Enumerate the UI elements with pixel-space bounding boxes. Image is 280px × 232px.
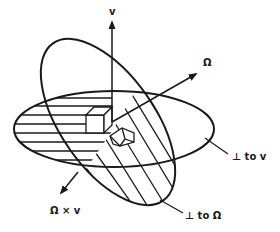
omega-axis-arrow xyxy=(112,74,196,122)
label-omega: Ω xyxy=(203,57,212,68)
label-v: v xyxy=(109,6,116,17)
label-perp-omega: ⊥ to Ω xyxy=(185,210,222,221)
cube-upper-icon xyxy=(86,107,112,133)
cube-lower-icon xyxy=(110,128,134,146)
label-omega-cross-v: Ω × v xyxy=(50,205,81,216)
leader-perp-v xyxy=(205,138,228,154)
diagram-canvas: v Ω Ω × v ⊥ to v ⊥ to Ω xyxy=(0,0,280,232)
plane-perp-v-ellipse xyxy=(14,91,214,167)
leader-perp-omega xyxy=(160,200,183,213)
omega-cross-v-axis-arrow xyxy=(61,172,78,193)
label-perp-v: ⊥ to v xyxy=(232,151,267,162)
